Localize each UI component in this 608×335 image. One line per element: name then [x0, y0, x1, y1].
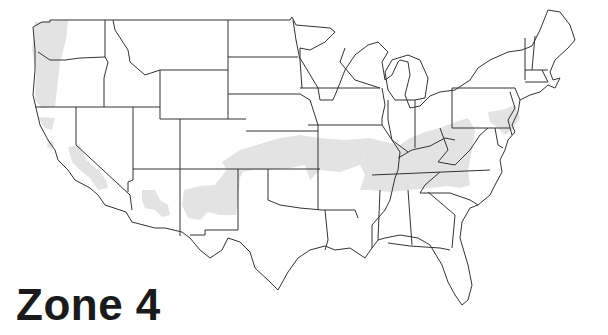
ms-al-border	[378, 190, 380, 240]
zone-northern-california	[38, 117, 55, 150]
id-mt-border	[113, 20, 160, 107]
zone-central-california	[68, 145, 108, 190]
ga-sc-border	[428, 192, 455, 248]
vt-nh-border	[532, 36, 535, 70]
zone-arizona	[142, 190, 170, 217]
map-title: Zone 4	[16, 283, 161, 327]
pa-ny-border	[452, 88, 520, 100]
nd-mn-border	[293, 20, 302, 88]
zone-central-band	[222, 135, 365, 180]
zone-pacific-northwest	[32, 20, 68, 108]
zone-mid-atlantic	[488, 105, 520, 135]
nv-ut-border	[128, 107, 133, 192]
ar-la-border	[322, 210, 358, 218]
id-west-border	[104, 20, 108, 107]
nc-sc-border	[420, 193, 478, 205]
ct-ri-border	[525, 70, 548, 82]
sd-ne-border	[228, 94, 310, 100]
la-tx-border	[325, 210, 328, 250]
ga-fl-border	[388, 243, 450, 250]
wy-co-border	[160, 107, 246, 119]
